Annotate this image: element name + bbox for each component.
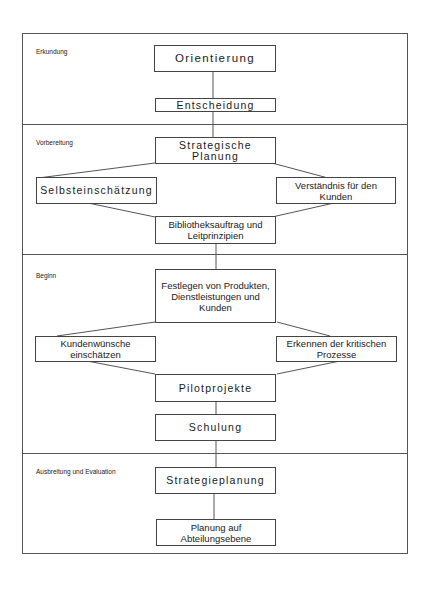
node-strategische-planung: Strategische Planung <box>155 137 276 164</box>
node-schulung: Schulung <box>155 414 276 441</box>
node-verstaendnis-kunden: Verständnis für den Kunden <box>276 177 396 204</box>
node-strategieplanung: Strategieplanung <box>155 467 276 494</box>
node-bibliotheksauftrag: Bibliotheksauftrag und Leitprinzipien <box>155 216 276 244</box>
node-selbsteinschaetzung: Selbsteinschätzung <box>36 177 157 204</box>
process-diagram: Erkundung Vorbereitung Beginn Ausbreitun… <box>0 0 430 590</box>
node-kundenwuensche: Kundenwünsche einschätzen <box>35 336 156 362</box>
node-pilotprojekte: Pilotprojekte <box>155 374 276 402</box>
node-planung-abteilungsebene: Planung auf Abteilungsebene <box>156 519 276 546</box>
node-festlegen: Festlegen von Produkten, Dienstleistunge… <box>155 269 276 323</box>
node-entscheidung: Entscheidung <box>155 98 276 112</box>
node-orientierung: Orientierung <box>154 45 276 72</box>
node-erkennen-prozesse: Erkennen der kritischen Prozesse <box>276 336 397 362</box>
